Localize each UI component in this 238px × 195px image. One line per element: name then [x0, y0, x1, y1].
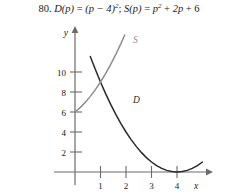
supply-equals-sign: =: [144, 3, 150, 14]
x-tick-label-2: 2: [124, 181, 129, 191]
supply-function-argument: (p): [129, 3, 141, 14]
x-axis-label: x: [193, 181, 199, 191]
problem-number: 80.: [38, 3, 51, 14]
plot-canvas: 10 8 6 4 2 1 2 3 4 y x D S: [0, 22, 238, 195]
y-axis-label: y: [63, 28, 69, 38]
x-tick-label-1: 1: [98, 181, 103, 191]
y-tick-label-8: 8: [62, 88, 67, 98]
supply-plus-two: +: [186, 3, 192, 14]
supply-term-one-exponent: 2: [158, 2, 162, 10]
supply-plus-one: +: [164, 3, 170, 14]
supply-curve-label: S: [133, 35, 138, 45]
x-tick-label-3: 3: [149, 181, 154, 191]
demand-function-name: D: [54, 3, 62, 14]
x-tick-label-4: 4: [175, 181, 180, 191]
y-tick-label-2: 2: [62, 148, 67, 158]
demand-expression-base: (p − 4): [85, 3, 115, 14]
y-axis-arrow-icon: [72, 26, 79, 33]
expression-separator: ;: [119, 3, 122, 14]
y-tick-label-6: 6: [62, 108, 67, 118]
y-tick-label-10: 10: [57, 68, 67, 78]
supply-term-three: 6: [194, 3, 199, 14]
x-axis-arrow-icon: [206, 169, 213, 176]
problem-statement: 80. D(p) = (p − 4)2; S(p) = p2 + 2p + 6: [0, 2, 238, 16]
supply-term-two: 2p: [173, 3, 184, 14]
demand-equals-sign: =: [77, 3, 83, 14]
demand-function-argument: (p): [62, 3, 74, 14]
demand-curve: [90, 56, 202, 172]
demand-curve-label: D: [132, 95, 140, 105]
supply-curve: [75, 35, 125, 112]
supply-demand-graph: 10 8 6 4 2 1 2 3 4 y x D S: [0, 22, 238, 195]
y-tick-label-4: 4: [62, 128, 67, 138]
textbook-figure-page: 80. D(p) = (p − 4)2; S(p) = p2 + 2p + 6 …: [0, 0, 238, 195]
